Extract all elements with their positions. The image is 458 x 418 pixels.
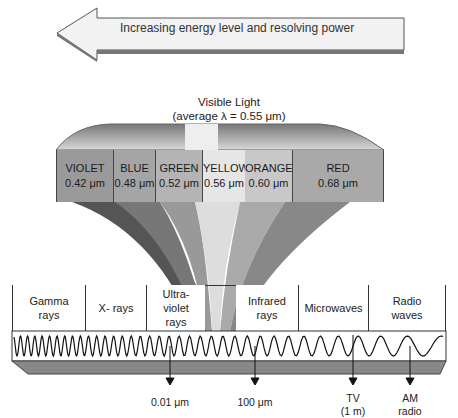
marker-sublabel: radio xyxy=(390,405,430,418)
band-wavelength: 0.68 μm xyxy=(293,176,383,191)
visible-band-violet: VIOLET 0.42 μm xyxy=(56,150,114,202)
marker-0-01-um: 0.01 μm xyxy=(140,396,200,409)
region-x-rays: X- rays xyxy=(86,285,147,331)
energy-arrow-label: Increasing energy level and resolving po… xyxy=(120,21,354,35)
region-label: Infrared rays xyxy=(242,294,292,322)
band-wavelength: 0.48 μm xyxy=(114,176,155,191)
band-wavelength: 0.60 μm xyxy=(245,176,292,191)
band-name: GREEN xyxy=(156,161,202,176)
region-gamma-rays: Gamma rays xyxy=(13,285,86,331)
band-name: YELLOW xyxy=(203,161,245,176)
marker-sublabel: (1 m) xyxy=(333,405,373,418)
marker-label: AM xyxy=(390,392,430,405)
band-wavelength: 0.52 μm xyxy=(156,176,202,191)
marker-label: TV xyxy=(333,392,373,405)
band-name: VIOLET xyxy=(57,161,113,176)
visible-band-yellow: YELLOW 0.56 μm xyxy=(203,150,245,202)
marker-am-radio: AM radio xyxy=(390,392,430,418)
region-label: X- rays xyxy=(99,301,134,315)
region-microwaves: Microwaves xyxy=(299,285,369,331)
visible-light-title: Visible Light (average λ = 0.55 μm) xyxy=(0,95,458,123)
marker-tv: TV (1 m) xyxy=(333,392,373,418)
visible-band-red: RED 0.68 μm xyxy=(293,150,384,202)
region-label: Radio waves xyxy=(387,294,427,322)
region-label: Ultra-violet rays xyxy=(156,287,196,329)
energy-arrow-icon xyxy=(0,0,458,80)
visible-band-orange: ORANGE 0.60 μm xyxy=(245,150,293,202)
region-label: Microwaves xyxy=(304,301,362,315)
band-name: BLUE xyxy=(114,161,155,176)
visible-band-blue: BLUE 0.48 μm xyxy=(114,150,156,202)
marker-label: 100 μm xyxy=(225,396,285,409)
marker-label: 0.01 μm xyxy=(140,396,200,409)
region-ultraviolet: Ultra-violet rays xyxy=(147,285,205,331)
band-wavelength: 0.42 μm xyxy=(57,176,113,191)
region-label: Gamma rays xyxy=(24,294,74,322)
region-radio-waves: Radio waves xyxy=(369,285,446,331)
band-wavelength: 0.56 μm xyxy=(203,176,245,191)
marker-100-um: 100 μm xyxy=(225,396,285,409)
band-name: RED xyxy=(293,161,383,176)
region-infrared: Infrared rays xyxy=(236,285,299,331)
visible-band-green: GREEN 0.52 μm xyxy=(156,150,203,202)
visible-light-heading: Visible Light xyxy=(0,95,458,109)
band-name: ORANGE xyxy=(245,161,292,176)
